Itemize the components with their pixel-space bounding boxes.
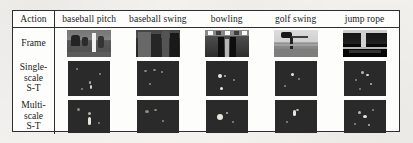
feature-map-single-jump-rope (344, 61, 386, 96)
cell-multi-st-baseball-swing (123, 98, 192, 134)
header-cell-bowling: bowling (192, 11, 261, 28)
row-label-multi-scale-st: Multi- scale S-T (13, 98, 55, 134)
cell-multi-st-bowling (192, 98, 261, 134)
table-header-row: Action baseball pitch baseball swing bow… (13, 11, 399, 28)
frame-thumbnail-baseball-swing (136, 30, 180, 57)
feature-map-single-bowling (206, 61, 248, 96)
feature-map-single-baseball-swing (137, 61, 179, 96)
header-cell-baseball-pitch: baseball pitch (55, 11, 124, 28)
feature-map-multi-baseball-swing (137, 100, 179, 133)
cell-multi-st-jump-rope (330, 98, 399, 134)
header-cell-jump-rope: jump rope (330, 11, 399, 28)
frame-thumbnail-golf-swing (274, 30, 318, 57)
cell-single-st-baseball-pitch (55, 58, 124, 98)
cell-frame-baseball-swing (123, 28, 192, 59)
header-cell-baseball-swing: baseball swing (123, 11, 192, 28)
row-label-frame: Frame (13, 28, 55, 59)
comparison-table: Action baseball pitch baseball swing bow… (13, 11, 399, 134)
figure-table: Action baseball pitch baseball swing bow… (12, 10, 400, 132)
frame-thumbnail-bowling (205, 30, 249, 57)
cell-frame-jump-rope (330, 28, 399, 59)
figure-page: Action baseball pitch baseball swing bow… (0, 0, 413, 143)
frame-thumbnail-baseball-pitch (67, 30, 111, 57)
table-row-frame: Frame (13, 28, 399, 59)
frame-thumbnail-jump-rope (343, 30, 387, 57)
feature-map-multi-golf-swing (275, 100, 317, 133)
cell-frame-baseball-pitch (55, 28, 124, 59)
cell-multi-st-golf-swing (261, 98, 330, 134)
feature-map-multi-jump-rope (344, 100, 386, 133)
header-cell-golf-swing: golf swing (261, 11, 330, 28)
feature-map-multi-bowling (206, 100, 248, 133)
cell-single-st-bowling (192, 58, 261, 98)
cell-frame-bowling (192, 28, 261, 59)
cell-multi-st-baseball-pitch (55, 98, 124, 134)
cell-single-st-baseball-swing (123, 58, 192, 98)
cell-single-st-jump-rope (330, 58, 399, 98)
cell-frame-golf-swing (261, 28, 330, 59)
row-label-single-scale-st: Single- scale S-T (13, 58, 55, 98)
feature-map-single-baseball-pitch (68, 61, 110, 96)
table-row-multi-scale-st: Multi- scale S-T (13, 98, 399, 134)
header-cell-action: Action (13, 11, 55, 28)
table-row-single-scale-st: Single- scale S-T (13, 58, 399, 98)
feature-map-single-golf-swing (275, 61, 317, 96)
cell-single-st-golf-swing (261, 58, 330, 98)
feature-map-multi-baseball-pitch (68, 100, 110, 133)
